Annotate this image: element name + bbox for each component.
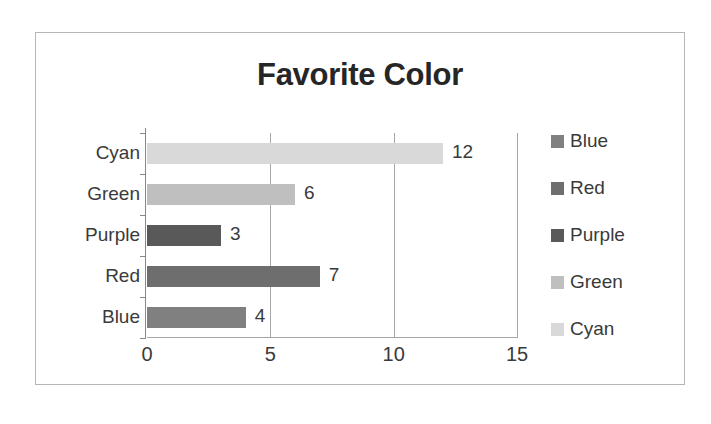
bar-value-label-green: 6 bbox=[304, 182, 315, 204]
bar-row: 3 bbox=[147, 215, 517, 256]
y-axis-tick bbox=[140, 174, 146, 175]
y-axis-tick bbox=[140, 215, 146, 216]
legend-item-red[interactable]: Red bbox=[551, 176, 605, 200]
legend-swatch-icon bbox=[551, 135, 564, 148]
bar-row: 12 bbox=[147, 133, 517, 174]
legend-label: Red bbox=[570, 178, 605, 198]
x-tick-label-15: 15 bbox=[506, 343, 528, 366]
legend-label: Blue bbox=[570, 131, 608, 151]
legend-item-blue[interactable]: Blue bbox=[551, 129, 608, 153]
category-label-green: Green bbox=[45, 184, 140, 204]
legend-swatch-icon bbox=[551, 182, 564, 195]
bar-row: 4 bbox=[147, 297, 517, 338]
bar-value-label-cyan: 12 bbox=[452, 141, 473, 163]
x-tick-label-5: 5 bbox=[265, 343, 276, 366]
y-axis-tick bbox=[140, 133, 146, 134]
bar-value-label-red: 7 bbox=[329, 264, 340, 286]
bar-blue[interactable] bbox=[147, 307, 246, 328]
legend-label: Green bbox=[570, 272, 623, 292]
y-axis-tick bbox=[140, 297, 146, 298]
y-axis-line bbox=[145, 128, 146, 339]
legend-swatch-icon bbox=[551, 229, 564, 242]
legend-label: Purple bbox=[570, 225, 625, 245]
bar-green[interactable] bbox=[147, 184, 295, 205]
bar-row: 6 bbox=[147, 174, 517, 215]
x-tick-label-0: 0 bbox=[141, 343, 152, 366]
plot-area: 126374 bbox=[147, 133, 517, 338]
category-axis-labels: CyanGreenPurpleRedBlue bbox=[44, 133, 140, 338]
bar-red[interactable] bbox=[147, 266, 320, 287]
bar-cyan[interactable] bbox=[147, 143, 443, 164]
legend-swatch-icon bbox=[551, 323, 564, 336]
bar-purple[interactable] bbox=[147, 225, 221, 246]
chart-legend: BlueRedPurpleGreenCyan bbox=[551, 129, 676, 364]
bar-value-label-purple: 3 bbox=[230, 223, 241, 245]
bar-row: 7 bbox=[147, 256, 517, 297]
category-label-cyan: Cyan bbox=[45, 143, 140, 163]
x-tick-label-10: 10 bbox=[383, 343, 405, 366]
legend-item-purple[interactable]: Purple bbox=[551, 223, 625, 247]
y-axis-tick bbox=[140, 256, 146, 257]
y-axis-tick bbox=[140, 338, 146, 339]
x-axis-tick-labels: 051015 bbox=[147, 343, 517, 373]
category-label-purple: Purple bbox=[45, 225, 140, 245]
category-label-blue: Blue bbox=[45, 307, 140, 327]
category-label-red: Red bbox=[45, 266, 140, 286]
chart-frame: Favorite Color CyanGreenPurpleRedBlue 12… bbox=[35, 32, 685, 385]
gridline-x-15 bbox=[517, 133, 518, 338]
legend-item-cyan[interactable]: Cyan bbox=[551, 317, 614, 341]
legend-item-green[interactable]: Green bbox=[551, 270, 623, 294]
legend-label: Cyan bbox=[570, 319, 614, 339]
legend-swatch-icon bbox=[551, 276, 564, 289]
bar-value-label-blue: 4 bbox=[255, 305, 266, 327]
chart-title: Favorite Color bbox=[36, 57, 684, 93]
